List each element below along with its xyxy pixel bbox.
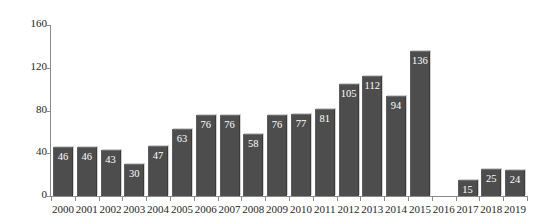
bar[interactable]: 136 [410, 51, 430, 196]
bar[interactable]: 94 [386, 96, 406, 196]
bar-value-label: 58 [244, 138, 262, 149]
bar-slot: 58 [243, 25, 263, 196]
x-axis-tick-mark [51, 196, 52, 201]
x-axis-tick-label: 2007 [218, 203, 242, 215]
bar-value-label: 43 [102, 154, 120, 165]
bar-slot: 30 [124, 25, 144, 196]
bar-slot: 112 [362, 25, 382, 196]
bar[interactable]: 46 [53, 147, 73, 196]
x-axis-tick-mark [432, 196, 433, 201]
x-axis-tick-mark [313, 196, 314, 201]
bar-value-label: 47 [149, 150, 167, 161]
bar-value-label: 46 [78, 151, 96, 162]
bar-slot: 43 [101, 25, 121, 196]
x-axis-tick-mark [75, 196, 76, 201]
x-axis-tick-mark [360, 196, 361, 201]
bar-value-label: 30 [125, 168, 143, 179]
x-axis-tick-label: 2013 [360, 203, 384, 215]
bar-slot [434, 25, 454, 196]
y-axis-tick-mark [45, 153, 50, 154]
bar-value-label: 94 [387, 100, 405, 111]
x-axis-tick-mark [456, 196, 457, 201]
x-axis-tick-mark [527, 196, 528, 201]
x-axis-tick-label: 2009 [265, 203, 289, 215]
bar[interactable]: 46 [77, 147, 97, 196]
bar-value-label: 105 [340, 88, 358, 99]
bar-value-label: 136 [411, 55, 429, 66]
bar[interactable]: 76 [220, 115, 240, 196]
bar-slot: 24 [505, 25, 525, 196]
bar[interactable]: 112 [362, 76, 382, 196]
bar-slot: 136 [410, 25, 430, 196]
bar-slot: 105 [339, 25, 359, 196]
bar[interactable]: 105 [339, 84, 359, 196]
bar-slot: 25 [481, 25, 501, 196]
x-axis-tick-label: 2000 [51, 203, 75, 215]
bar-value-label: 76 [197, 119, 215, 130]
x-axis-tick-label: 2002 [99, 203, 123, 215]
bar-value-label: 76 [221, 119, 239, 130]
x-axis-tick-label: 2017 [456, 203, 480, 215]
y-axis-tick-mark [45, 111, 50, 112]
bar-value-label: 46 [54, 151, 72, 162]
y-axis-tick-mark [45, 25, 50, 26]
x-axis-tick-mark [384, 196, 385, 201]
bar[interactable]: 76 [267, 115, 287, 196]
x-axis-tick-mark [503, 196, 504, 201]
bar[interactable]: 81 [315, 109, 335, 196]
x-axis-tick-mark [146, 196, 147, 201]
x-axis-tick-label: 2004 [146, 203, 170, 215]
bar-slot: 47 [148, 25, 168, 196]
bar-value-label: 25 [482, 173, 500, 184]
x-axis-tick-label: 2012 [337, 203, 361, 215]
x-axis-tick-mark [170, 196, 171, 201]
x-axis-tick-mark [479, 196, 480, 201]
bar[interactable]: 24 [505, 170, 525, 196]
x-axis-tick-label: 2010 [289, 203, 313, 215]
bar[interactable]: 25 [481, 169, 501, 196]
bar-slot: 94 [386, 25, 406, 196]
x-axis-tick-mark [289, 196, 290, 201]
bar[interactable]: 77 [291, 114, 311, 196]
y-axis-tick-label: 80 [36, 104, 47, 115]
x-axis-tick-label: 2015 [408, 203, 432, 215]
y-axis-tick-label: 40 [36, 146, 47, 157]
x-axis-tick-label: 2001 [75, 203, 99, 215]
plot-area: 4646433047637676587677811051129413615252… [51, 25, 527, 196]
bar-value-label: 24 [506, 174, 524, 185]
y-axis-tick-mark [45, 68, 50, 69]
bar[interactable]: 58 [243, 134, 263, 196]
x-axis-tick-mark [194, 196, 195, 201]
bar-value-label: 81 [316, 113, 334, 124]
x-axis-tick-mark [99, 196, 100, 201]
bar-slot: 15 [458, 25, 478, 196]
x-axis-tick-label: 2011 [313, 203, 337, 215]
bar[interactable]: 30 [124, 164, 144, 196]
bar[interactable]: 47 [148, 146, 168, 196]
x-axis-tick-label: 2019 [503, 203, 527, 215]
bar[interactable]: 43 [101, 150, 121, 196]
bar[interactable]: 63 [172, 129, 192, 196]
bar-value-label: 112 [363, 80, 381, 91]
x-axis-tick-label: 2014 [384, 203, 408, 215]
x-axis-tick-label: 2016 [432, 203, 456, 215]
x-axis-tick-mark [337, 196, 338, 201]
y-axis-tick-label: 120 [31, 61, 48, 72]
x-axis-tick-mark [408, 196, 409, 201]
bar-value-label: 63 [173, 133, 191, 144]
bar-slot: 76 [267, 25, 287, 196]
bar-slot: 46 [53, 25, 73, 196]
bar-slot: 76 [196, 25, 216, 196]
bar[interactable]: 76 [196, 115, 216, 196]
bar-chart: 04080120160 4646433047637676587677811051… [0, 0, 546, 224]
x-axis-tick-label: 2008 [241, 203, 265, 215]
x-axis-tick-label: 2003 [122, 203, 146, 215]
x-axis-tick-mark [241, 196, 242, 201]
y-axis-tick-mark [45, 196, 50, 197]
x-axis-tick-mark [218, 196, 219, 201]
bar-slot: 63 [172, 25, 192, 196]
bar[interactable]: 15 [458, 180, 478, 196]
bar-slot: 76 [220, 25, 240, 196]
x-axis-tick-label: 2006 [194, 203, 218, 215]
bar-value-label: 15 [459, 184, 477, 195]
